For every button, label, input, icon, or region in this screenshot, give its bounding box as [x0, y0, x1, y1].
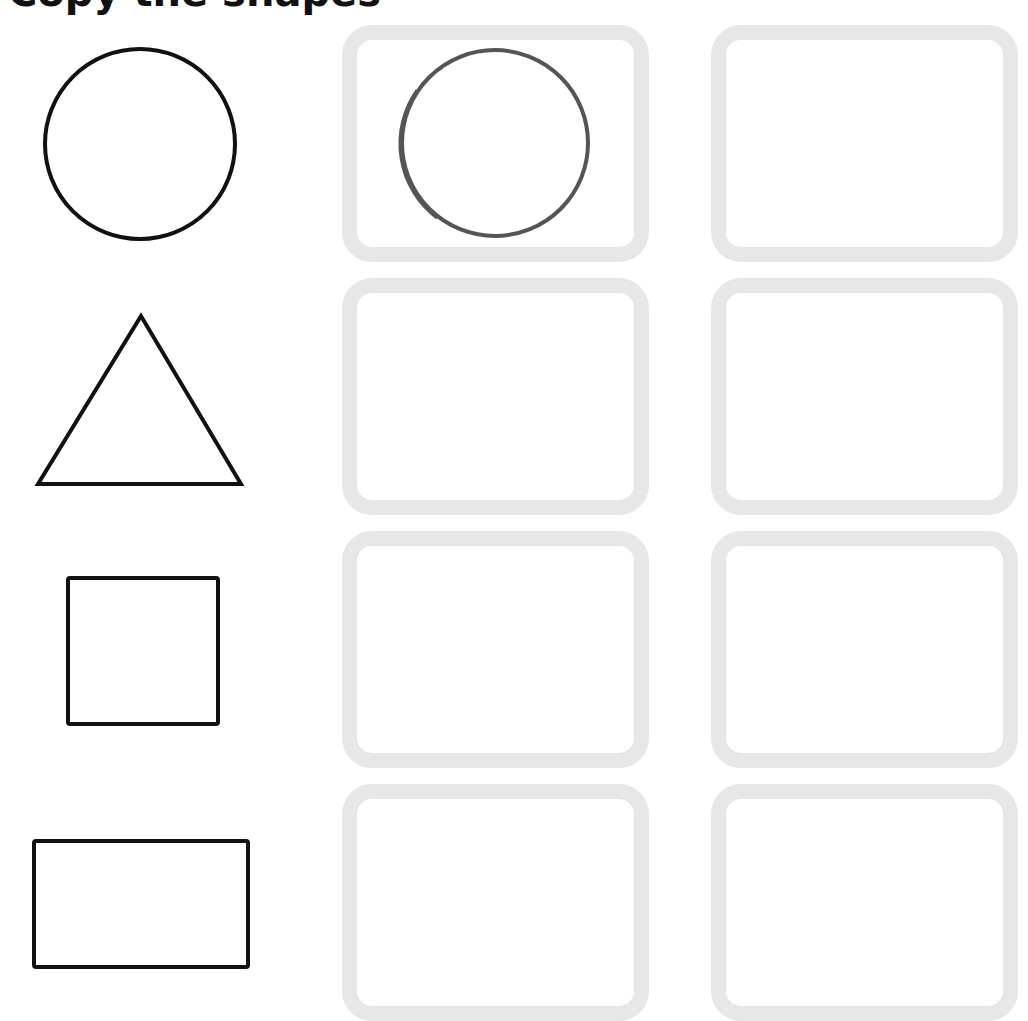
- practice-box-row3-col1[interactable]: [342, 531, 649, 768]
- traced-circle-icon: [357, 40, 634, 247]
- model-rectangle: [0, 0, 300, 997]
- practice-box-row3-col2[interactable]: [711, 531, 1018, 768]
- practice-box-row4-col2[interactable]: [711, 784, 1018, 1021]
- practice-box-row2-col1[interactable]: [342, 278, 649, 515]
- practice-box-row2-col2[interactable]: [711, 278, 1018, 515]
- rectangle-icon: [0, 0, 300, 997]
- practice-box-row4-col1[interactable]: [342, 784, 649, 1021]
- practice-box-row1-col1[interactable]: [342, 25, 649, 262]
- practice-box-row1-col2[interactable]: [711, 25, 1018, 262]
